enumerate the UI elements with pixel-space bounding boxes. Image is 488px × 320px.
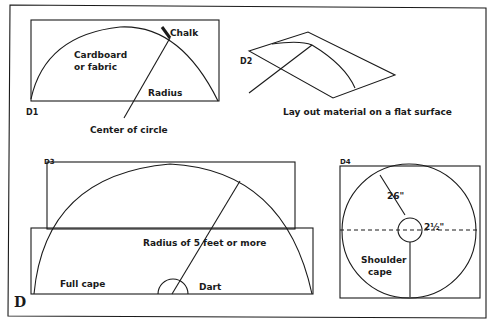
figure-label: D [14, 294, 26, 310]
d2-string-line [249, 45, 312, 93]
d3-dart-label: Dart [199, 282, 222, 292]
d4-label-1: Shoulder [361, 255, 407, 265]
d2-material-sheet [249, 32, 395, 98]
cape-pattern-diagram: Chalk Cardboard or fabric Radius D1 Cent… [0, 0, 488, 320]
d3-full-cape-label: Full cape [60, 279, 105, 289]
d1-radius-label: Radius [148, 88, 182, 98]
panel-d3: D3 Radius of 5 feet or more Full cape Da… [31, 158, 313, 294]
d4-label-2: cape [368, 267, 392, 277]
d2-id-label: D2 [240, 57, 252, 66]
d1-id-label: D1 [26, 108, 39, 117]
d3-id-label: D3 [44, 158, 55, 166]
panel-d1: Chalk Cardboard or fabric Radius D1 Cent… [26, 20, 219, 135]
d4-id-label: D4 [340, 158, 351, 166]
d3-radius-label: Radius of 5 feet or more [143, 238, 266, 248]
d1-chalk-label: Chalk [170, 28, 199, 38]
d2-caption: Lay out material on a flat surface [283, 107, 452, 117]
d4-outer-radius-label: 26" [387, 191, 404, 201]
d1-center-label: Center of circle [90, 125, 168, 135]
d1-radius-line [124, 38, 170, 118]
d4-inner-radius-label: 2½" [424, 222, 444, 232]
d1-arc [31, 27, 218, 101]
panel-d4: 26" 2½" Shoulder cape D4 [340, 158, 480, 298]
d4-outer-circle [342, 164, 476, 298]
d1-material-label-2: or fabric [74, 62, 117, 72]
panel-d2: D2 Lay out material on a flat surface [240, 32, 452, 117]
d1-material-label-1: Cardboard [74, 50, 127, 60]
